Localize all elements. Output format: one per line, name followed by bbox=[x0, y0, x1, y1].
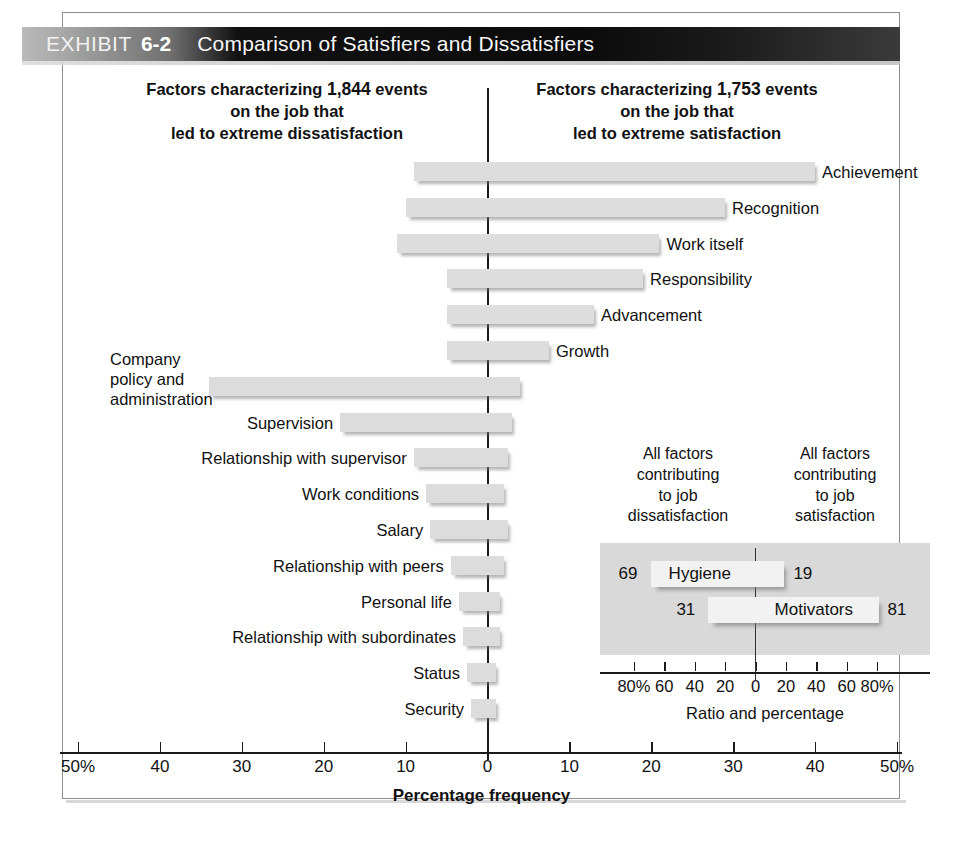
bar-label-growth: Growth bbox=[556, 342, 609, 361]
bar-label-responsibility: Responsibility bbox=[650, 270, 752, 289]
x-tick-9 bbox=[815, 742, 816, 752]
inset-caption-line: All factors bbox=[603, 444, 753, 465]
x-tick-label-10: 50% bbox=[867, 757, 927, 777]
bar-security bbox=[471, 699, 496, 718]
x-tick-2 bbox=[242, 742, 243, 752]
bar-label-personal-life: Personal life bbox=[361, 593, 452, 612]
bar-label-relationship-with-subordinates: Relationship with subordinates bbox=[232, 628, 456, 647]
bar-label-relationship-with-supervisor: Relationship with supervisor bbox=[201, 449, 406, 468]
inset-caption-line: contributing bbox=[603, 465, 753, 486]
exhibit-figure: EXHIBIT 6-2 Comparison of Satisfiers and… bbox=[0, 0, 963, 847]
x-tick-8 bbox=[733, 742, 734, 752]
inset-caption-line: All factors bbox=[760, 444, 910, 465]
inset-caption-line: contributing bbox=[760, 465, 910, 486]
inset-tick-2 bbox=[695, 662, 696, 671]
bar-personal-life bbox=[459, 592, 500, 611]
inset-bar-label-motivators: Motivators bbox=[775, 600, 853, 620]
bar-label-work-itself: Work itself bbox=[666, 235, 743, 254]
bar-status bbox=[467, 663, 496, 682]
x-tick-7 bbox=[651, 742, 652, 752]
bar-label-salary: Salary bbox=[376, 521, 423, 540]
x-tick-6 bbox=[569, 742, 570, 752]
x-tick-5 bbox=[488, 742, 489, 752]
inset-left-value-motivators: 31 bbox=[676, 600, 695, 620]
inset-caption-line: satisfaction bbox=[760, 506, 910, 527]
bar-growth bbox=[447, 341, 549, 360]
inset-right-value-hygiene: 19 bbox=[793, 564, 812, 584]
x-tick-1 bbox=[160, 742, 161, 752]
inset-caption-line: dissatisfaction bbox=[603, 506, 753, 527]
bar-label-work-conditions: Work conditions bbox=[302, 485, 419, 504]
x-tick-label-2: 30 bbox=[212, 757, 272, 777]
x-tick-label-9: 40 bbox=[785, 757, 845, 777]
x-tick-label-1: 40 bbox=[130, 757, 190, 777]
x-tick-label-8: 30 bbox=[703, 757, 763, 777]
x-tick-4 bbox=[406, 742, 407, 752]
inset-caption-satisfaction: All factorscontributingto jobsatisfactio… bbox=[760, 444, 910, 527]
inset-tick-6 bbox=[816, 662, 817, 671]
x-tick-label-5: 0 bbox=[458, 757, 518, 777]
inset-tick-7 bbox=[847, 662, 848, 671]
bar-relationship-with-peers bbox=[451, 556, 504, 575]
bar-label-achievement: Achievement bbox=[822, 163, 917, 182]
bar-salary bbox=[430, 520, 508, 539]
bar-achievement bbox=[414, 162, 815, 181]
bar-relationship-with-subordinates bbox=[463, 627, 500, 646]
inset-tick-1 bbox=[664, 662, 665, 671]
bar-label-supervision: Supervision bbox=[247, 414, 333, 433]
x-tick-3 bbox=[324, 742, 325, 752]
inset-tick-label-8: 80% bbox=[855, 677, 899, 696]
inset-axis-title: Ratio and percentage bbox=[600, 704, 930, 723]
bar-advancement bbox=[447, 305, 594, 324]
inset-bar-label-hygiene: Hygiene bbox=[669, 564, 731, 584]
bar-label-advancement: Advancement bbox=[601, 306, 702, 325]
bar-label-status: Status bbox=[413, 664, 460, 683]
bar-work-conditions bbox=[426, 484, 504, 503]
bar-label-relationship-with-peers: Relationship with peers bbox=[273, 557, 444, 576]
inset-tick-0 bbox=[634, 662, 635, 671]
bar-label-recognition: Recognition bbox=[732, 199, 819, 218]
inset-tick-8 bbox=[877, 662, 878, 671]
inset-left-value-hygiene: 69 bbox=[619, 564, 638, 584]
x-tick-label-7: 20 bbox=[621, 757, 681, 777]
inset-tick-3 bbox=[725, 662, 726, 671]
inset-axis-line bbox=[600, 672, 930, 674]
x-tick-0 bbox=[78, 742, 79, 752]
inset-right-value-motivators: 81 bbox=[888, 600, 907, 620]
x-tick-label-4: 10 bbox=[376, 757, 436, 777]
bar-recognition bbox=[406, 198, 725, 217]
inset-caption-line: to job bbox=[603, 486, 753, 507]
bar-work-itself bbox=[397, 234, 659, 253]
bar-label-company-policy-and-administration: Companypolicy andadministration bbox=[110, 349, 213, 409]
x-tick-label-0: 50% bbox=[48, 757, 108, 777]
bar-relationship-with-supervisor bbox=[414, 448, 508, 467]
x-axis-line bbox=[60, 752, 902, 754]
x-tick-label-6: 10 bbox=[539, 757, 599, 777]
x-axis-title: Percentage frequency bbox=[0, 786, 963, 806]
inset-tick-4 bbox=[756, 662, 757, 671]
x-tick-10 bbox=[897, 742, 898, 752]
inset-caption-dissatisfaction: All factorscontributingto jobdissatisfac… bbox=[603, 444, 753, 527]
inset-caption-line: to job bbox=[760, 486, 910, 507]
bar-responsibility bbox=[447, 269, 644, 288]
bar-supervision bbox=[340, 413, 512, 432]
bar-company-policy-and-administration bbox=[209, 377, 520, 396]
bar-label-security: Security bbox=[405, 700, 465, 719]
x-tick-label-3: 20 bbox=[294, 757, 354, 777]
inset-tick-5 bbox=[786, 662, 787, 671]
